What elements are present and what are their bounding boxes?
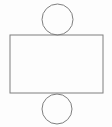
- cylinder-net-diagram: [0, 0, 112, 127]
- rectangle-face: [10, 35, 103, 93]
- diagram-canvas: [0, 0, 112, 127]
- bottom-circle: [42, 94, 72, 124]
- top-circle: [42, 4, 73, 35]
